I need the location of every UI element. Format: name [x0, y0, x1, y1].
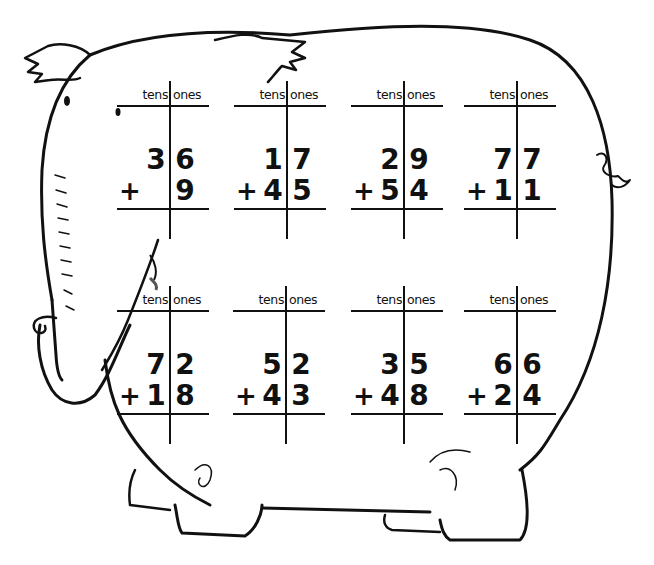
tens-label: tens: [377, 87, 402, 102]
header-rule: [351, 105, 443, 107]
addition-problem-5: tensones 7 2 + 1 8: [117, 286, 209, 444]
top-ones-digit: 7: [291, 146, 313, 174]
ones-label: ones: [520, 292, 548, 307]
header-rule: [233, 310, 325, 312]
plus-sign: +: [119, 177, 141, 205]
bottom-tens-digit: 1: [145, 382, 167, 410]
bottom-ones-digit: 4: [521, 382, 543, 410]
top-tens-digit: 3: [145, 146, 167, 174]
bottom-tens-digit: 4: [379, 382, 401, 410]
tens-label: tens: [490, 292, 515, 307]
sum-rule: [464, 208, 556, 210]
header-rule: [464, 105, 556, 107]
bottom-ones-digit: 4: [408, 177, 430, 205]
plus-sign: +: [353, 382, 375, 410]
sum-rule: [464, 413, 556, 415]
plus-sign: +: [353, 177, 375, 205]
column-divider: [403, 286, 405, 444]
tens-label: tens: [377, 292, 402, 307]
header-rule: [351, 310, 443, 312]
top-ones-digit: 9: [408, 146, 430, 174]
tail: [597, 153, 630, 187]
right-ear: [215, 35, 305, 82]
ones-label: ones: [173, 87, 201, 102]
addition-problem-2: tensones 1 7 + 4 5: [234, 81, 326, 239]
top-tens-digit: 5: [261, 351, 283, 379]
ones-label: ones: [407, 292, 435, 307]
addition-problem-8: tensones 6 6 + 2 4: [464, 286, 556, 444]
bottom-ones-digit: 8: [174, 382, 196, 410]
addition-problem-3: tensones 2 9 + 5 4: [351, 81, 443, 239]
plus-sign: +: [235, 382, 257, 410]
top-ones-digit: 6: [174, 146, 196, 174]
ones-label: ones: [290, 87, 318, 102]
top-tens-digit: 2: [379, 146, 401, 174]
tens-label: tens: [490, 87, 515, 102]
bottom-ones-digit: 3: [290, 382, 312, 410]
sum-rule: [351, 413, 443, 415]
column-divider: [169, 286, 171, 444]
header-rule: [117, 105, 209, 107]
bottom-tens-digit: 4: [261, 382, 283, 410]
sum-rule: [117, 413, 209, 415]
tens-label: tens: [143, 292, 168, 307]
top-tens-digit: 3: [379, 351, 401, 379]
sum-rule: [234, 208, 326, 210]
top-ones-digit: 2: [290, 351, 312, 379]
column-divider: [516, 81, 518, 239]
ones-label: ones: [407, 87, 435, 102]
top-tens-digit: 1: [262, 146, 284, 174]
top-ones-digit: 5: [408, 351, 430, 379]
bottom-ones-digit: 9: [174, 177, 196, 205]
column-divider: [403, 81, 405, 239]
header-rule: [464, 310, 556, 312]
column-divider: [286, 81, 288, 239]
top-ones-digit: 6: [521, 351, 543, 379]
plus-sign: +: [466, 177, 488, 205]
tens-label: tens: [260, 87, 285, 102]
top-ones-digit: 2: [174, 351, 196, 379]
addition-problem-1: tensones 3 6 + 9: [117, 81, 209, 239]
ones-label: ones: [520, 87, 548, 102]
column-divider: [516, 286, 518, 444]
top-ones-digit: 7: [521, 146, 543, 174]
bottom-ones-digit: 8: [408, 382, 430, 410]
bottom-tens-digit: 5: [379, 177, 401, 205]
addition-problem-6: tensones 5 2 + 4 3: [233, 286, 325, 444]
bottom-tens-digit: 1: [492, 177, 514, 205]
sum-rule: [233, 413, 325, 415]
addition-problem-4: tensones 7 7 + 1 1: [464, 81, 556, 239]
tens-label: tens: [259, 292, 284, 307]
top-tens-digit: 7: [492, 146, 514, 174]
bottom-ones-digit: 1: [521, 177, 543, 205]
column-divider: [285, 286, 287, 444]
header-rule: [117, 310, 209, 312]
top-tens-digit: 7: [145, 351, 167, 379]
tens-label: tens: [143, 87, 168, 102]
sum-rule: [117, 208, 209, 210]
plus-sign: +: [236, 177, 258, 205]
header-rule: [234, 105, 326, 107]
bottom-tens-digit: 2: [492, 382, 514, 410]
top-tens-digit: 6: [492, 351, 514, 379]
plus-sign: +: [466, 382, 488, 410]
plus-sign: +: [119, 382, 141, 410]
eye: [64, 96, 70, 106]
ones-label: ones: [173, 292, 201, 307]
ones-label: ones: [289, 292, 317, 307]
column-divider: [169, 81, 171, 239]
sum-rule: [351, 208, 443, 210]
bottom-ones-digit: 5: [291, 177, 313, 205]
bottom-tens-digit: 4: [262, 177, 284, 205]
addition-problem-7: tensones 3 5 + 4 8: [351, 286, 443, 444]
